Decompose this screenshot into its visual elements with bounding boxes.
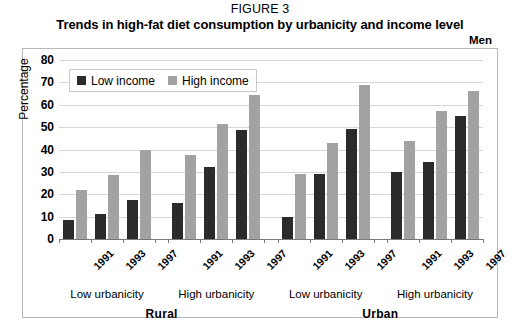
bar-low-income: [204, 167, 215, 239]
bar-low-income: [423, 162, 434, 239]
x-axis-tick: [419, 239, 420, 243]
bar-low-income: [391, 172, 402, 239]
chart-frame: Percentage 01020304050607080 19911993199…: [22, 48, 498, 318]
bar-high-income: [359, 85, 370, 239]
x-axis-tick: [264, 239, 265, 243]
y-axis-tick-label: 0: [47, 234, 54, 244]
legend-label: High income: [182, 75, 249, 87]
y-axis-tick-label: 40: [41, 145, 54, 155]
legend-label: Low income: [91, 75, 155, 87]
bar-high-income: [76, 190, 87, 239]
legend-item: High income: [168, 75, 249, 87]
x-axis-tick: [59, 239, 60, 243]
x-axis-tick: [387, 239, 388, 243]
chart-header: FIGURE 3 Trends in high-fat diet consump…: [0, 0, 520, 47]
x-axis-year-label: 1993: [123, 247, 148, 272]
x-axis-tick: [123, 239, 124, 243]
x-axis-urbanicity-label: High urbanicity: [156, 288, 276, 300]
page-title: Trends in high-fat diet consumption by u…: [0, 17, 520, 33]
bar-low-income: [63, 220, 74, 239]
x-axis-tick: [232, 239, 233, 243]
x-axis-year-label: 1993: [341, 247, 366, 272]
x-axis-year-label: 1993: [451, 247, 476, 272]
bar-low-income: [236, 130, 247, 239]
x-axis-tick: [310, 239, 311, 243]
bar-low-income: [95, 214, 106, 239]
bar-high-income: [185, 155, 196, 239]
bar-high-income: [217, 124, 228, 239]
bar-high-income: [436, 111, 447, 239]
x-axis-urbanicity-label: Low urbanicity: [47, 288, 167, 300]
x-axis-tick: [451, 239, 452, 243]
bar-high-income: [140, 150, 151, 240]
legend-swatch-icon: [77, 76, 86, 85]
x-axis-tick: [483, 239, 484, 243]
x-axis-urbanicity-label: High urbanicity: [375, 288, 495, 300]
x-axis-tick: [200, 239, 201, 243]
x-axis-year-label: 1997: [373, 247, 398, 272]
bar-high-income: [404, 141, 415, 239]
y-axis-tick-label: 30: [41, 167, 54, 177]
x-axis-year-label: 1991: [309, 247, 334, 272]
bar-high-income: [468, 91, 479, 239]
sex-label: Men: [0, 33, 520, 47]
legend-item: Low income: [77, 75, 155, 87]
x-axis-tick: [91, 239, 92, 243]
x-axis-year-label: 1993: [232, 247, 257, 272]
x-axis-year-label: 1997: [264, 247, 289, 272]
y-axis-tick-label: 50: [41, 122, 54, 132]
bar-high-income: [327, 143, 338, 239]
bar-low-income: [127, 200, 138, 239]
bar-low-income: [455, 116, 466, 239]
legend-swatch-icon: [168, 76, 177, 85]
chart-legend: Low incomeHigh income: [69, 69, 257, 92]
bar-low-income: [172, 203, 183, 239]
bar-high-income: [108, 175, 119, 239]
x-axis-tick: [155, 239, 156, 243]
y-axis-tick-label: 20: [41, 189, 54, 199]
x-axis-tick: [374, 239, 375, 243]
x-axis-area-label: Urban: [278, 307, 483, 321]
y-axis-title: Percentage: [17, 29, 31, 149]
x-axis-tick: [168, 239, 169, 243]
x-axis-year-label: 1991: [91, 247, 116, 272]
bar-high-income: [295, 174, 306, 239]
x-axis-tick: [342, 239, 343, 243]
bar-low-income: [346, 129, 357, 239]
bar-low-income: [314, 174, 325, 239]
bar-high-income: [249, 95, 260, 239]
x-axis-year-label: 1997: [483, 247, 508, 272]
x-axis-area-label: Rural: [59, 307, 264, 321]
x-axis-tick: [278, 239, 279, 243]
x-axis-year-label: 1991: [419, 247, 444, 272]
figure-number: FIGURE 3: [0, 0, 520, 17]
x-axis-year-label: 1997: [155, 247, 180, 272]
x-axis-year-label: 1991: [200, 247, 225, 272]
y-axis-tick-label: 60: [41, 100, 54, 110]
y-axis-tick-label: 70: [41, 77, 54, 87]
bar-low-income: [282, 217, 293, 239]
x-axis-urbanicity-label: Low urbanicity: [266, 288, 386, 300]
y-axis-tick-label: 80: [41, 55, 54, 65]
y-axis-tick-label: 10: [41, 212, 54, 222]
